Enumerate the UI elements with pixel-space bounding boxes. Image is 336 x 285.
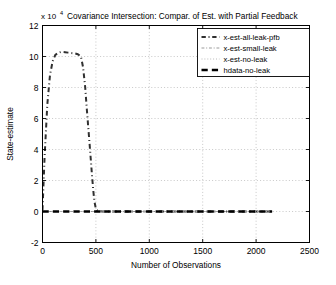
x-tick-label: 500 [89,246,103,256]
x-tick-label: 2500 [300,246,319,256]
chart-title: Covariance Intersection: Compar. of Est.… [67,11,298,21]
legend[interactable]: x-est-all-leak-pfbx-est-small-leakx-est-… [198,29,310,77]
chart-canvas: Covariance Intersection: Compar. of Est.… [0,0,336,285]
y-tick-label: 8 [34,83,39,93]
y-tick-label: 4 [34,145,39,155]
x-tick-label: 1000 [140,246,159,256]
y-axis-label: State-estimate [5,107,15,161]
y-tick-label: 0 [34,207,39,217]
legend-label: x-est-no-leak [224,55,268,64]
x-tick-label: 1500 [193,246,212,256]
x-axis-label: Number of Observations [131,260,221,270]
y-tick-label: 6 [34,114,39,124]
chart-figure: Covariance Intersection: Compar. of Est.… [0,0,336,285]
y-tick-label: -2 [31,238,39,248]
legend-label: hdata-no-leak [224,66,271,75]
x-tick-label: 2000 [247,246,266,256]
y-tick-label: 12 [29,21,39,31]
legend-label: x-est-all-leak-pfb [224,33,280,42]
y-tick-label: 10 [29,52,39,62]
x-tick-label: 0 [40,246,45,256]
y-axis-exponent-label: x 10 [41,12,57,21]
legend-label: x-est-small-leak [224,44,277,53]
y-axis-exponent-power: 4 [60,10,63,16]
y-tick-label: 2 [34,176,39,186]
